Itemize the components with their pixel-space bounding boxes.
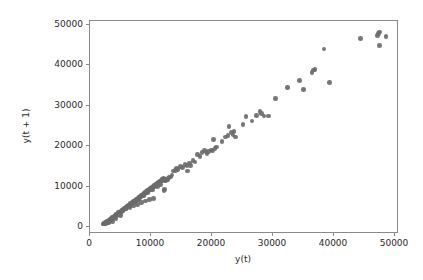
scatter-point xyxy=(377,43,382,48)
scatter-point xyxy=(297,78,302,83)
scatter-point xyxy=(155,184,160,189)
x-tick-mark xyxy=(89,233,90,236)
x-tick-mark xyxy=(211,233,212,236)
scatter-point xyxy=(358,36,363,41)
scatter-point xyxy=(211,137,216,142)
y-tick-label: 10000 xyxy=(54,181,83,191)
scatter-point xyxy=(285,85,290,90)
scatter-point xyxy=(114,212,119,217)
scatter-point xyxy=(193,160,198,165)
scatter-point xyxy=(327,80,332,85)
x-tick-mark xyxy=(333,233,334,236)
scatter-point xyxy=(384,34,389,39)
scatter-point xyxy=(146,191,151,196)
scatter-point xyxy=(322,47,327,52)
scatter-point xyxy=(214,145,219,150)
x-axis-label: y(t) xyxy=(235,254,251,264)
scatter-point xyxy=(220,139,225,144)
scatter-point xyxy=(254,113,259,118)
scatter-point xyxy=(241,122,246,127)
x-tick-mark xyxy=(394,233,395,236)
scatter-point xyxy=(188,163,193,168)
scatter-point xyxy=(227,124,232,129)
y-tick-mark xyxy=(86,226,89,227)
scatter-point xyxy=(114,217,119,222)
scatter-point xyxy=(137,197,142,202)
x-tick-label: 10000 xyxy=(136,238,165,248)
scatter-point xyxy=(313,67,318,72)
x-tick-label: 40000 xyxy=(319,238,348,248)
scatter-point xyxy=(232,129,237,134)
scatter-point xyxy=(233,135,238,140)
scatter-point xyxy=(150,188,155,193)
y-tick-mark xyxy=(86,24,89,25)
x-tick-label: 0 xyxy=(86,238,92,248)
y-tick-label: 20000 xyxy=(54,140,83,150)
plot-area xyxy=(89,20,398,233)
y-tick-label: 40000 xyxy=(54,59,83,69)
scatter-point xyxy=(266,114,271,119)
y-tick-mark xyxy=(86,64,89,65)
x-tick-label: 50000 xyxy=(380,238,409,248)
x-tick-label: 20000 xyxy=(197,238,226,248)
x-tick-mark xyxy=(150,233,151,236)
scatter-point xyxy=(250,119,255,124)
y-axis-label: y(t + 1) xyxy=(21,109,31,144)
scatter-point xyxy=(244,114,249,119)
y-tick-mark xyxy=(86,186,89,187)
scatter-point xyxy=(162,187,167,192)
scatter-point xyxy=(101,222,106,227)
y-tick-label: 30000 xyxy=(54,100,83,110)
scatter-point xyxy=(141,194,146,199)
y-tick-mark xyxy=(86,145,89,146)
scatter-point xyxy=(132,200,137,205)
scatter-point xyxy=(151,196,156,201)
scatter-point xyxy=(185,169,190,174)
scatter-plot-figure: 0100002000030000400005000001000020000300… xyxy=(0,0,423,280)
y-tick-label: 0 xyxy=(77,221,83,231)
scatter-point xyxy=(167,175,172,180)
scatter-points-layer xyxy=(90,21,397,232)
x-tick-mark xyxy=(272,233,273,236)
scatter-point xyxy=(128,203,133,208)
scatter-point xyxy=(273,96,278,101)
scatter-point xyxy=(143,199,148,204)
x-tick-label: 30000 xyxy=(258,238,287,248)
y-tick-label: 50000 xyxy=(54,19,83,29)
scatter-point xyxy=(123,206,128,211)
scatter-point xyxy=(377,30,382,35)
y-tick-mark xyxy=(86,105,89,106)
scatter-point xyxy=(301,87,306,92)
scatter-point xyxy=(147,197,152,202)
